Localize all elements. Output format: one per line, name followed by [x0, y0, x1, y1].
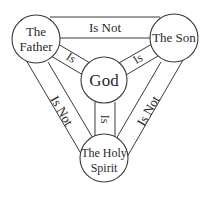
edge-label-father-spirit: Is Not	[47, 93, 76, 129]
node-spirit-line2: Spirit	[91, 161, 118, 175]
edge-label-father-god: Is	[64, 49, 79, 66]
node-holy-spirit: The Holy Spirit	[80, 134, 128, 182]
node-spirit-line1: The Holy	[81, 146, 127, 160]
edge-father-son: Is Not	[50, 17, 160, 38]
edge-label-father-son: Is Not	[89, 20, 122, 35]
edge-god-spirit: Is	[95, 102, 115, 137]
node-god: God	[81, 57, 127, 103]
node-son-label: The Son	[152, 30, 196, 45]
edge-label-god-spirit: Is	[98, 115, 112, 124]
node-father-line1: The	[26, 24, 46, 39]
node-father: The Father	[12, 15, 60, 63]
node-god-label: God	[89, 71, 119, 90]
edge-label-son-spirit: Is Not	[134, 93, 163, 129]
trinity-diagram: Is Not Is Is Is Is Not	[0, 0, 208, 201]
node-son: The Son	[150, 14, 198, 62]
node-father-line2: Father	[19, 39, 53, 54]
trinity-svg: Is Not Is Is Is Is Not	[0, 0, 208, 201]
